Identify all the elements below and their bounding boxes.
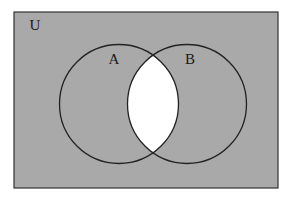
set-a-label: A <box>109 51 120 67</box>
set-b-label: B <box>185 51 195 67</box>
universe-label: U <box>30 17 41 33</box>
venn-diagram: U A B <box>0 0 290 199</box>
